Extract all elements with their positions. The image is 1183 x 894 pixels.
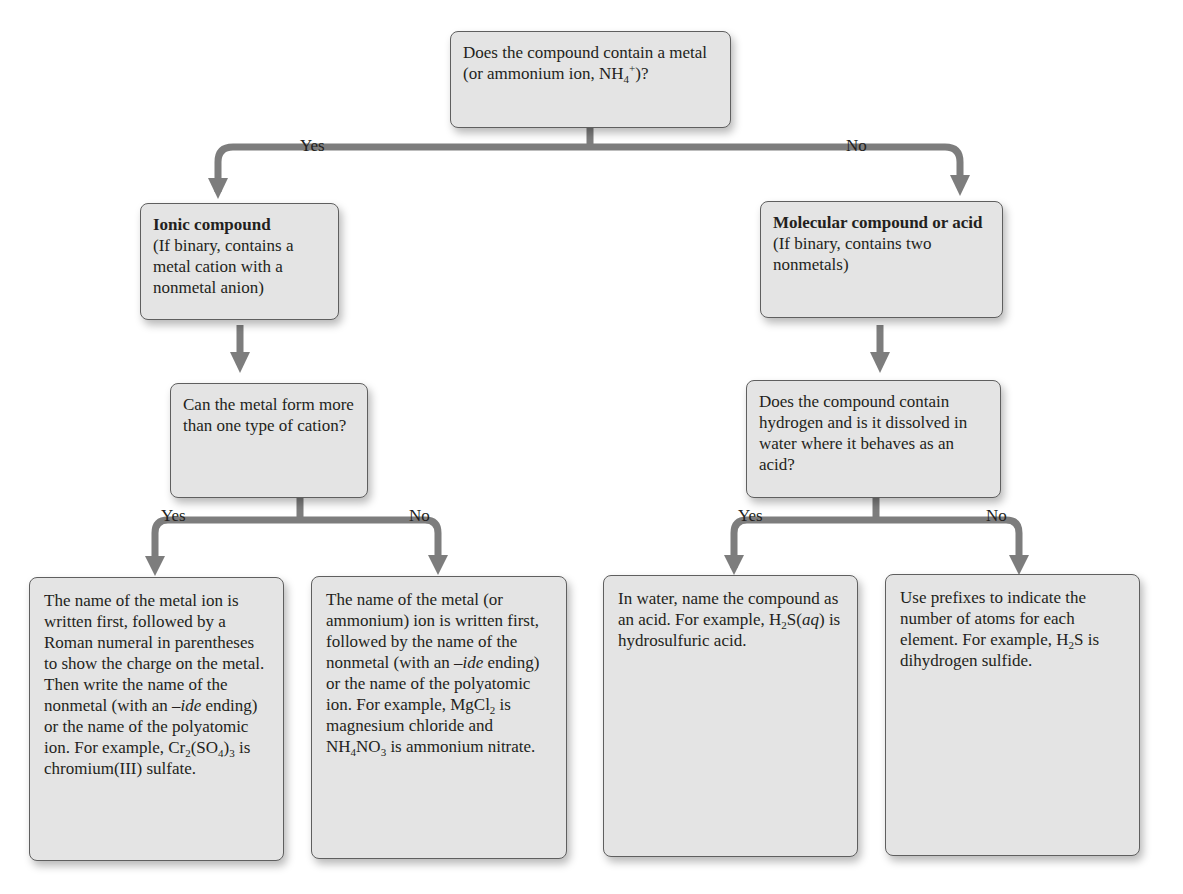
leaf-roman-numeral-box: The name of the metal ion is written fir… xyxy=(29,577,284,861)
acid-branch-no-label: No xyxy=(986,506,1007,526)
acid-question-box: Does the compound contain hydrogen and i… xyxy=(746,380,1001,498)
leaf-single-cation-box: The name of the metal (or ammonium) ion … xyxy=(311,576,567,859)
ionic-compound-box: Ionic compound (If binary, contains a me… xyxy=(140,203,339,320)
molecular-compound-desc: (If binary, contains two nonmetals) xyxy=(773,234,931,274)
metal-cation-question-box: Can the metal form more than one type of… xyxy=(170,383,368,498)
molecular-compound-box: Molecular compound or acid (If binary, c… xyxy=(760,201,1003,318)
root-question-box: Does the compound contain a metal (or am… xyxy=(450,31,731,128)
acid-branch-yes-label: Yes xyxy=(738,506,763,526)
metal-branch-yes-label: Yes xyxy=(161,506,186,526)
leaf-acid-box: In water, name the compound as an acid. … xyxy=(603,575,858,857)
ionic-compound-title: Ionic compound xyxy=(153,215,271,234)
branch-no-label: No xyxy=(846,136,867,156)
root-question-text: Does the compound contain a metal (or am… xyxy=(463,43,707,83)
branch-yes-label: Yes xyxy=(300,136,325,156)
acid-question-text: Does the compound contain hydrogen and i… xyxy=(759,392,967,474)
metal-branch-no-label: No xyxy=(409,506,430,526)
arrow-yes-1 xyxy=(208,178,228,199)
metal-cation-question-text: Can the metal form more than one type of… xyxy=(183,395,354,435)
leaf-prefixes-box: Use prefixes to indicate the number of a… xyxy=(885,574,1140,856)
ionic-compound-desc: (If binary, contains a metal cation with… xyxy=(153,236,294,297)
molecular-compound-title: Molecular compound or acid xyxy=(773,213,983,232)
